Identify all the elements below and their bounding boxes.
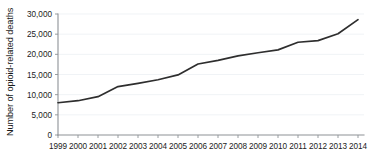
x-tick-label: 2004 <box>149 142 168 151</box>
x-tick-label: 2011 <box>289 142 307 151</box>
x-tick-label: 1999 <box>49 142 68 151</box>
x-tick-label: 2007 <box>209 142 228 151</box>
x-tick-label: 2001 <box>89 142 108 151</box>
data-series-line <box>58 20 358 103</box>
x-tick-label: 2000 <box>69 142 88 151</box>
y-tick-label: 0 <box>47 131 52 140</box>
x-tick-label: 2012 <box>309 142 328 151</box>
x-tick-label: 2014 <box>349 142 368 151</box>
chart-container: Number of opioid-related deaths 05,00010… <box>0 0 382 162</box>
x-tick-label: 2006 <box>189 142 208 151</box>
y-tick-label: 5,000 <box>32 111 53 120</box>
x-tick-label: 2002 <box>109 142 128 151</box>
line-chart: Number of opioid-related deaths 05,00010… <box>0 0 382 162</box>
x-axis-tick-labels-group: 1999200020012002200320042005200620072008… <box>49 142 368 151</box>
x-tick-label: 2013 <box>329 142 348 151</box>
x-tick-label: 2003 <box>129 142 148 151</box>
x-tick-label: 2005 <box>169 142 188 151</box>
y-axis-tick-labels-group: 05,00010,00015,00020,00025,00030,000 <box>27 10 52 140</box>
gridlines-group <box>58 14 364 115</box>
x-tick-label: 2008 <box>229 142 248 151</box>
y-tick-label: 30,000 <box>27 10 52 19</box>
y-tick-label: 20,000 <box>27 50 52 59</box>
x-tick-label: 2010 <box>269 142 288 151</box>
y-axis-label: Number of opioid-related deaths <box>5 7 15 136</box>
x-tick-label: 2009 <box>249 142 268 151</box>
y-tick-label: 15,000 <box>27 71 52 80</box>
y-tick-label: 25,000 <box>27 30 52 39</box>
y-tick-label: 10,000 <box>27 91 52 100</box>
